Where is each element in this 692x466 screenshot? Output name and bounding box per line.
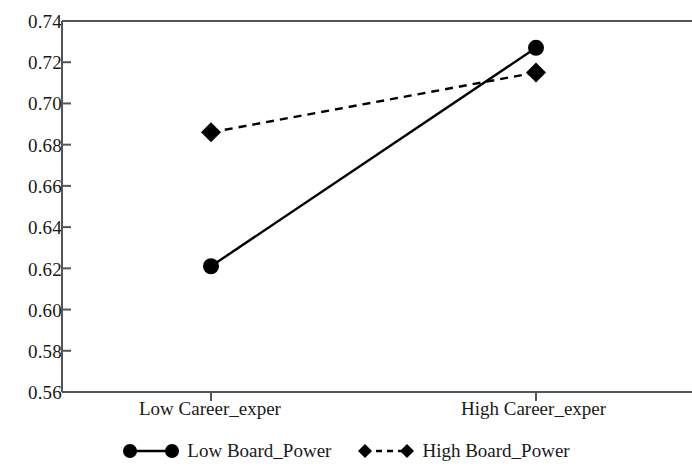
data-point-marker <box>201 122 221 142</box>
axis-frame <box>62 21 692 392</box>
x-tick-label-low: Low Career_exper <box>139 398 281 420</box>
legend-label-high-board-power: High Board_Power <box>422 440 569 462</box>
plot-area <box>0 0 692 466</box>
legend-item-low-board-power: Low Board_Power <box>122 440 331 462</box>
dashed-line-diamond-marker-icon <box>357 442 415 460</box>
solid-line-circle-marker-icon <box>122 442 180 460</box>
interaction-plot: 0.74 0.72 0.70 0.68 0.66 0.64 0.62 0.60 … <box>0 0 692 466</box>
series-low-board-power <box>203 40 544 274</box>
legend-item-high-board-power: High Board_Power <box>357 440 569 462</box>
chart-legend: Low Board_Power High Board_Power <box>0 437 692 465</box>
data-point-marker <box>526 63 546 83</box>
data-point-marker <box>528 40 544 56</box>
data-point-marker <box>203 258 219 274</box>
x-tick-label-high: High Career_exper <box>461 398 606 420</box>
legend-label-low-board-power: Low Board_Power <box>187 440 331 462</box>
y-axis-ticks <box>62 62 71 351</box>
